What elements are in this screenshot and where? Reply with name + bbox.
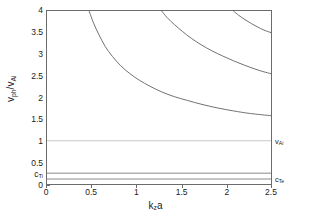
annotation-vAi: vAi — [275, 138, 283, 146]
x-tick-label-0: 0 — [44, 188, 49, 197]
x-axis-title: kza — [0, 200, 311, 211]
plot-area — [46, 10, 272, 185]
x-axis-title-tail: a — [157, 200, 163, 211]
series-branch-3 — [233, 11, 271, 33]
y-tick-label-cTi: cTi — [34, 170, 43, 180]
y-axis-title: vph/vAi — [5, 44, 16, 134]
y-axis-title-sub2: Ai — [10, 76, 17, 82]
y-tick-label-2: 2 — [38, 94, 43, 103]
y-tick-label-1: 1 — [38, 137, 43, 146]
y-axis-title-slash: /v — [5, 82, 16, 90]
y-axis-title-sub1: ph — [10, 89, 17, 97]
x-tick-label-2.5: 2.5 — [265, 188, 277, 197]
curves-svg — [47, 11, 271, 184]
x-tick-label-1: 1 — [134, 188, 139, 197]
annotation-cTe: cTe — [275, 176, 284, 184]
cTe-sub: Te — [279, 178, 284, 184]
x-tick-label-1.5: 1.5 — [176, 188, 188, 197]
y-tick-label-1.5: 1.5 — [31, 115, 43, 124]
y-tick-label-0: 0 — [38, 181, 43, 190]
series-branch-2 — [162, 11, 271, 74]
y-tick-label-3: 3 — [38, 50, 43, 59]
y-tick-label-3.5: 3.5 — [31, 28, 43, 37]
vAi-sub: Ai — [279, 140, 284, 146]
series-layer — [47, 11, 271, 179]
y-tick-label-2.5: 2.5 — [31, 72, 43, 81]
y-tick-label-0.5: 0.5 — [31, 159, 43, 168]
y-axis-title-main: v — [5, 97, 16, 102]
x-tick-label-0.5: 0.5 — [85, 188, 97, 197]
cTi-sub: Ti — [38, 173, 43, 179]
y-tick-label-4: 4 — [38, 6, 43, 15]
series-branch-1 — [89, 11, 271, 116]
x-tick-label-2: 2 — [224, 188, 229, 197]
dispersion-chart-figure: vph/vAi 4 3.5 3 2.5 2 1.5 1 0.5 0 cTi 0 … — [0, 0, 311, 223]
